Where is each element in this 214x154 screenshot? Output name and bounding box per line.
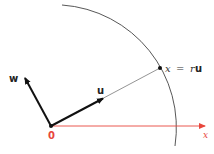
label-point-equation: x = r u — [165, 63, 202, 74]
vector-w — [25, 78, 51, 126]
diagram-canvas: w u 0 x x = r u — [0, 0, 214, 154]
label-x-axis: x — [203, 130, 208, 140]
point-x — [158, 66, 162, 70]
label-w: w — [9, 73, 18, 84]
svg-text:u: u — [195, 63, 202, 74]
label-u: u — [97, 85, 104, 96]
svg-text:x: x — [165, 63, 171, 74]
circle-arc — [62, 5, 176, 146]
label-origin: 0 — [48, 130, 55, 141]
svg-text:=: = — [176, 63, 184, 74]
vector-u — [51, 99, 103, 127]
origin-point — [49, 124, 53, 128]
